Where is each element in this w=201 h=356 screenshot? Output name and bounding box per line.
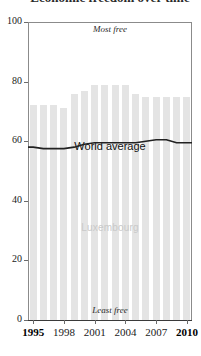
x-tickmark-2010 <box>187 320 188 324</box>
chart-title-cropped: Economic freedom over time <box>28 0 192 5</box>
x-tickmark-1995 <box>33 320 34 324</box>
y-tick-label-100: 100 <box>7 15 22 27</box>
bar-1997 <box>50 105 57 320</box>
x-tick-label-2010: 2010 <box>176 326 198 339</box>
x-axis: 199519982001200420072010 <box>0 320 201 356</box>
y-tick-60: 60 <box>0 141 28 142</box>
x-tick-label-1998: 1998 <box>53 326 75 339</box>
x-tick-label-1995: 1995 <box>22 326 44 339</box>
y-tick-20: 20 <box>0 260 28 261</box>
x-tick-label-2001: 2001 <box>84 326 106 339</box>
bar-1995 <box>30 105 37 320</box>
x-tick-label-2004: 2004 <box>114 326 136 339</box>
x-tickmark-2007 <box>156 320 157 324</box>
y-tick-label-60: 60 <box>12 134 22 146</box>
x-tickmark-2004 <box>125 320 126 324</box>
bar-2009 <box>173 97 180 321</box>
bar-2002 <box>101 85 108 320</box>
annotation-world-average: World average <box>28 140 192 153</box>
y-tick-label-80: 80 <box>12 75 22 87</box>
annotation-most-free: Most free <box>28 24 192 35</box>
bar-1996 <box>40 105 47 320</box>
bar-2001 <box>91 85 98 320</box>
y-tick-40: 40 <box>0 201 28 202</box>
chart-title-text: Economic freedom over time <box>28 0 192 3</box>
y-tick-80: 80 <box>0 82 28 83</box>
bar-2003 <box>112 85 119 320</box>
bar-1999 <box>71 94 78 320</box>
bar-2000 <box>81 91 88 320</box>
y-tick-100: 100 <box>0 22 28 23</box>
annotation-least-free: Least free <box>28 305 192 316</box>
bar-2007 <box>153 97 160 321</box>
annotation-country-luxembourg: Luxembourg <box>28 222 192 234</box>
y-tick-label-40: 40 <box>12 194 22 206</box>
bar-2004 <box>122 85 129 320</box>
bar-2008 <box>163 97 170 321</box>
bar-2005 <box>132 94 139 320</box>
y-tick-label-20: 20 <box>12 253 22 265</box>
bar-2006 <box>142 97 149 321</box>
bar-series-luxembourg <box>28 22 192 320</box>
bar-2010 <box>183 97 190 321</box>
x-tick-label-2007: 2007 <box>145 326 167 339</box>
y-axis: 100 80 60 40 20 0 <box>0 0 28 356</box>
x-tickmark-1998 <box>64 320 65 324</box>
x-tickmark-2001 <box>95 320 96 324</box>
economic-freedom-chart: Economic freedom over time 100 80 60 40 … <box>0 0 201 356</box>
